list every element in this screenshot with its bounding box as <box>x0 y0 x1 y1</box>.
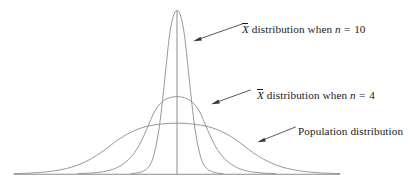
sample-size-value-n10: 10 <box>354 23 365 35</box>
xbar-symbol-n10: X <box>242 23 249 35</box>
equals-sign-n10: = <box>341 23 354 35</box>
equals-sign-n4: = <box>356 89 369 101</box>
leader-arrow-xbar-n10 <box>193 24 243 42</box>
leader-arrow-population <box>257 127 295 142</box>
label-text-n10-middle: distribution when <box>249 23 335 35</box>
label-xbar-n10: X distribution when n = 10 <box>242 23 366 35</box>
label-text-n4-middle: distribution when <box>264 89 350 101</box>
label-population-distribution: Population distribution <box>298 126 403 137</box>
xbar-symbol-n4: X <box>257 89 264 101</box>
leader-arrow-xbar-n4 <box>211 90 250 104</box>
sampling-distribution-figure: X distribution when n = 10 X distributio… <box>0 0 411 187</box>
sample-size-value-n4: 4 <box>369 89 375 101</box>
label-xbar-n4: X distribution when n = 4 <box>257 89 375 101</box>
